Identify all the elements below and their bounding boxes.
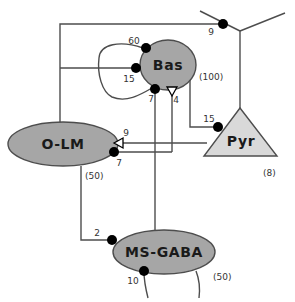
- weight-msgaba-bas: 7: [148, 94, 154, 104]
- cell-pyr-label: Pyr: [227, 133, 255, 149]
- cell-msgaba-count: (50): [213, 272, 231, 282]
- weight-olm-bas: 15: [123, 74, 134, 84]
- circuit-diagram: Bas (100) O-LM (50) Pyr (8) MS-GABA (50)…: [0, 0, 295, 302]
- cell-pyr-count: (8): [263, 168, 276, 178]
- synapse-ext-msgaba[interactable]: [139, 266, 149, 276]
- wire-pyr-apical-branch-right: [240, 13, 285, 31]
- cell-bas-count: (100): [199, 72, 223, 82]
- weight-msgaba-olm: 7: [116, 158, 122, 168]
- cell-msgaba-label: MS-GABA: [125, 244, 203, 260]
- synapse-olm-msgaba[interactable]: [107, 235, 117, 245]
- cell-bas-label: Bas: [153, 57, 183, 73]
- synapse-msgaba-olm[interactable]: [109, 147, 119, 157]
- weight-ext-msgaba: 10: [127, 276, 139, 286]
- wire-msgaba-afferent-right: [196, 271, 200, 298]
- weight-pyr-bas: 4: [173, 95, 179, 105]
- synapse-olm-bas[interactable]: [131, 63, 141, 73]
- wire-bas-to-pyr-apical: [60, 24, 221, 131]
- synapse-bas-bas[interactable]: [141, 43, 151, 53]
- weight-bas-pyr-apical: 9: [208, 27, 214, 37]
- synapse-bas-pyr-apical[interactable]: [218, 19, 228, 29]
- weight-bas-bas: 60: [128, 36, 140, 46]
- cell-olm-count: (50): [85, 171, 103, 181]
- weight-bas-pyr: 15: [203, 114, 214, 124]
- synapse-msgaba-bas[interactable]: [150, 84, 160, 94]
- weight-olm-msgaba: 2: [94, 228, 100, 238]
- weight-pyr-olm: 9: [123, 128, 129, 138]
- cell-olm-label: O-LM: [41, 136, 84, 152]
